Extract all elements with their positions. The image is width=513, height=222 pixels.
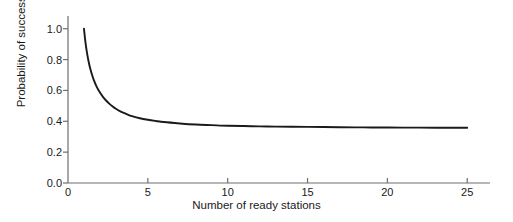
x-axis-tick-label: 5 [145,187,151,198]
y-axis-title: Probability of success [16,0,28,112]
x-axis-title: Number of ready stations [0,200,513,212]
chart-plot-area [0,0,513,222]
x-axis-tick-label: 0 [65,187,71,198]
y-axis-ticks [63,29,68,183]
x-axis-tick-label: 20 [381,187,393,198]
y-axis-tick-label: 0.8 [22,54,62,65]
y-axis-tick-label: 0.6 [22,85,62,96]
x-axis-tick-label: 15 [301,187,313,198]
y-axis-tick-label: 0.4 [22,116,62,127]
y-axis-tick-label: 0.0 [22,178,62,189]
data-series-line [84,29,467,128]
x-axis-tick-label: 10 [222,187,234,198]
y-axis-tick-label: 0.2 [22,147,62,158]
y-axis-tick-label: 1.0 [22,23,62,34]
x-axis-tick-label: 25 [461,187,473,198]
chart-figure: 0.00.20.40.60.81.0 0510152025 Number of … [0,0,513,222]
x-axis-ticks [148,178,467,183]
axis-lines [68,16,490,183]
